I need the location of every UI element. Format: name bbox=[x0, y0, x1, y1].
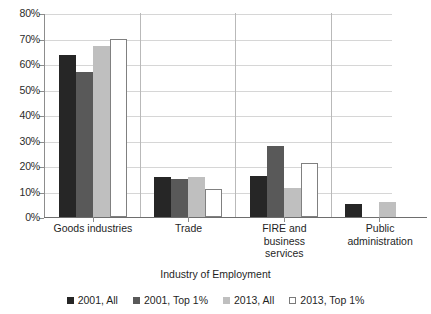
x-axis-category-label: Trade bbox=[141, 222, 237, 260]
bar-group bbox=[236, 14, 332, 217]
x-axis-line bbox=[44, 217, 427, 218]
y-axis-tick-label: 80% bbox=[0, 7, 40, 19]
legend-item[interactable]: 2013, Top 1% bbox=[289, 294, 364, 306]
bar bbox=[284, 188, 301, 217]
category-label-line: Public bbox=[334, 222, 426, 235]
y-axis-tick-label: 0% bbox=[0, 211, 40, 223]
legend-item[interactable]: 2001, All bbox=[67, 294, 118, 306]
legend-swatch bbox=[133, 297, 140, 304]
legend-item[interactable]: 2013, All bbox=[223, 294, 274, 306]
bar bbox=[110, 39, 127, 218]
x-axis-category-label: FIRE andbusinessservices bbox=[237, 222, 333, 260]
y-axis-tick-label: 40% bbox=[0, 109, 40, 121]
category-label-line: business bbox=[239, 235, 331, 248]
bar bbox=[301, 163, 318, 217]
bar-groups bbox=[45, 14, 427, 217]
bar bbox=[345, 204, 362, 217]
category-label-line: services bbox=[239, 247, 331, 260]
bar bbox=[76, 72, 93, 217]
legend-label: 2001, Top 1% bbox=[144, 294, 208, 306]
x-axis-title: Industry of Employment bbox=[0, 268, 431, 280]
y-axis-tick-label: 20% bbox=[0, 160, 40, 172]
legend-swatch bbox=[289, 297, 296, 304]
bar-group-bars bbox=[154, 14, 222, 217]
bar bbox=[188, 177, 205, 217]
legend-swatch bbox=[223, 297, 230, 304]
bar-group-bars bbox=[345, 14, 413, 217]
bar-group-bars bbox=[59, 14, 127, 217]
bar bbox=[93, 46, 110, 217]
x-axis-category-label: Goods industries bbox=[45, 222, 141, 260]
legend-label: 2013, Top 1% bbox=[300, 294, 364, 306]
category-label-line: Trade bbox=[143, 222, 235, 235]
bar-group-bars bbox=[250, 14, 318, 217]
category-label-line: administration bbox=[334, 235, 426, 248]
legend-swatch bbox=[67, 297, 74, 304]
y-axis-tick-label: 10% bbox=[0, 186, 40, 198]
legend-label: 2001, All bbox=[78, 294, 118, 306]
bar bbox=[171, 179, 188, 217]
bar bbox=[267, 146, 284, 217]
bar bbox=[379, 202, 396, 217]
bar-group bbox=[332, 14, 428, 217]
plot-area: 0%10%20%30%40%50%60%70%80% bbox=[44, 14, 427, 218]
bar bbox=[250, 176, 267, 217]
y-axis-tick-label: 30% bbox=[0, 135, 40, 147]
category-label-line: FIRE and bbox=[239, 222, 331, 235]
bar bbox=[59, 55, 76, 217]
bar-group bbox=[141, 14, 237, 217]
category-label-line: Goods industries bbox=[47, 222, 139, 235]
bar bbox=[205, 189, 222, 217]
x-axis-category-label: Publicadministration bbox=[332, 222, 428, 260]
bar bbox=[154, 177, 171, 217]
bar-chart: 0%10%20%30%40%50%60%70%80% Goods industr… bbox=[0, 0, 431, 314]
bar-group bbox=[45, 14, 141, 217]
y-axis-tick-label: 70% bbox=[0, 33, 40, 45]
chart-legend: 2001, All2001, Top 1%2013, All2013, Top … bbox=[0, 294, 431, 306]
legend-label: 2013, All bbox=[234, 294, 274, 306]
y-axis-tick-label: 60% bbox=[0, 58, 40, 70]
y-axis-tick-label: 50% bbox=[0, 84, 40, 96]
x-axis-category-labels: Goods industriesTradeFIRE andbusinessser… bbox=[45, 222, 428, 260]
legend-item[interactable]: 2001, Top 1% bbox=[133, 294, 208, 306]
